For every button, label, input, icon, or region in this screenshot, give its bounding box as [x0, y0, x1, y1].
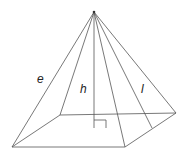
edge-front-left: [12, 12, 94, 147]
edge-back-right: [94, 12, 176, 113]
pyramid-figure: e h l: [0, 0, 190, 151]
slant-height-line: [94, 12, 152, 128]
label-slant: l: [141, 82, 144, 96]
right-angle-marker: [94, 120, 106, 128]
edge-back-left: [60, 12, 94, 115]
edge-front-right: [94, 12, 125, 147]
label-height: h: [80, 82, 87, 96]
pyramid-diagram: e h l: [0, 0, 190, 151]
label-edge: e: [37, 72, 44, 86]
apex-point: [93, 11, 96, 14]
